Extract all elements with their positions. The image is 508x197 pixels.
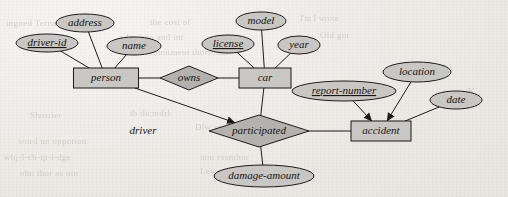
edge-report-number-to-accident	[353, 101, 372, 121]
attribute-label-damage-amount: damage-amount	[228, 169, 300, 181]
er-diagram-canvas: addressdriver-idnamemodellicenseyearrepo…	[0, 0, 508, 197]
attribute-label-report-number: report-number	[312, 84, 377, 96]
attribute-label-location: location	[399, 65, 436, 77]
attribute-label-date: date	[447, 93, 466, 105]
er-diagram-page: ingned Ternadelapse onthe cost ofI'm I w…	[0, 0, 508, 197]
edge-license-to-car	[237, 52, 254, 68]
relationship-label-participated: participated	[231, 124, 286, 136]
entity-label-person: person	[90, 71, 121, 83]
node-layer	[16, 12, 482, 187]
edge-person-to-participated	[135, 88, 235, 123]
relationship-label-owns: owns	[178, 71, 201, 83]
attribute-label-name: name	[122, 39, 146, 51]
attribute-label-address: address	[68, 16, 102, 28]
attribute-label-model: model	[248, 14, 275, 26]
edge-date-to-accident	[405, 107, 439, 121]
attribute-label-license: license	[213, 37, 244, 49]
entity-label-car: car	[258, 71, 273, 83]
edge-address-to-person	[88, 32, 102, 68]
entity-label-accident: accident	[362, 124, 400, 136]
edge-car-to-participated	[261, 88, 264, 116]
edge-driver-id-to-person	[61, 51, 90, 68]
edge-participated-to-damage-amount	[261, 146, 263, 165]
attribute-label-year: year	[288, 38, 309, 50]
role-label-driver: driver	[130, 124, 158, 136]
edge-year-to-car	[275, 53, 290, 68]
edge-model-to-car	[262, 30, 265, 68]
edge-name-to-person	[115, 55, 127, 68]
attribute-label-driver-id: driver-id	[28, 36, 67, 48]
